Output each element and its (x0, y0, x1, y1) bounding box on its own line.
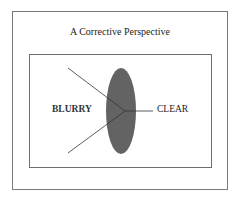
clear-label: CLEAR (157, 104, 188, 114)
blurry-label: BLURRY (52, 104, 92, 114)
lens-diagram (0, 0, 240, 200)
